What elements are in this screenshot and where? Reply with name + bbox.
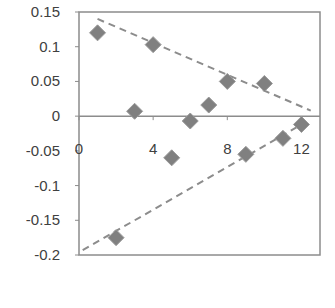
data-point — [275, 130, 291, 146]
y-tick-label: -0.2 — [34, 246, 60, 263]
y-tick-label: 0.15 — [31, 3, 60, 20]
y-tick-label: 0.05 — [31, 72, 60, 89]
y-tick-label: 0 — [52, 107, 60, 124]
scatter-chart: 0.150.10.050-0.05-0.1-0.15-0.2 04812 — [0, 0, 335, 308]
y-axis: 0.150.10.050-0.05-0.1-0.15-0.2 — [26, 3, 79, 263]
data-point — [219, 73, 235, 89]
data-points — [90, 25, 310, 246]
y-tick-label: -0.05 — [26, 142, 60, 159]
data-point — [201, 97, 217, 113]
upper-bound-line — [98, 19, 311, 111]
y-tick-label: -0.15 — [26, 211, 60, 228]
y-tick-label: -0.1 — [34, 177, 60, 194]
x-tick-label: 8 — [223, 140, 231, 157]
data-point — [90, 25, 106, 41]
x-tick-label: 4 — [149, 140, 157, 157]
y-tick-label: 0.1 — [39, 38, 60, 55]
x-tick-label: 12 — [293, 140, 310, 157]
trend-lines — [83, 19, 311, 250]
data-point — [293, 116, 309, 132]
x-tick-label: 0 — [75, 140, 83, 157]
data-point — [145, 37, 161, 53]
data-point — [256, 76, 272, 92]
data-point — [108, 230, 124, 246]
data-point — [164, 150, 180, 166]
